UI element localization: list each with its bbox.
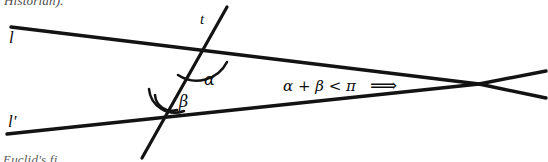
geometry-diagram: l l' t α β α + β < π ⟹: [0, 0, 548, 162]
label-angle-beta: β: [178, 92, 188, 111]
label-line-l-prime: l': [8, 112, 17, 131]
figure-screenshot: Historian). l l' t α β α + β < π ⟹ Eucli…: [0, 0, 548, 162]
label-line-l: l: [9, 28, 14, 47]
annotation-inequality: α + β < π: [283, 77, 357, 95]
alpha-angle-arc: [178, 62, 227, 81]
annotation-implication-arrow: ⟹: [370, 74, 397, 96]
label-transversal-t: t: [200, 11, 205, 27]
line-l-prime: [7, 71, 546, 134]
line-l: [11, 27, 546, 98]
caption-below-partial: Euclid's fi: [3, 152, 57, 162]
label-angle-alpha: α: [204, 70, 215, 89]
